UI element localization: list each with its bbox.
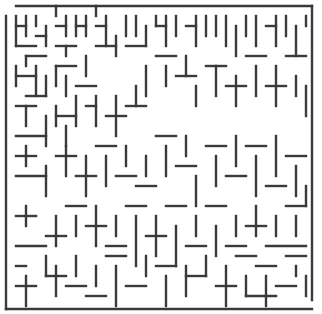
maze bbox=[0, 0, 322, 314]
